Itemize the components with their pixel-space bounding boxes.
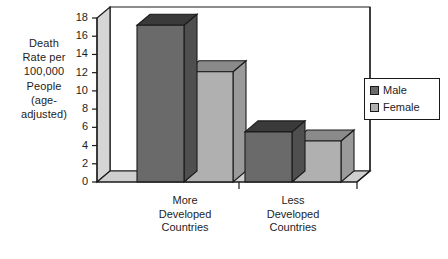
y-axis-tick-label: 0 — [66, 176, 88, 187]
bar-front-male-1 — [245, 132, 292, 182]
bar-side-male-0 — [184, 14, 197, 182]
y-axis-tick-label: 18 — [66, 12, 88, 23]
legend-item-male: Male — [370, 85, 407, 96]
x-axis-category-label-line: Less — [228, 194, 358, 208]
x-axis-category-label-line: Developed — [228, 208, 358, 222]
y-axis-tick-label: 2 — [66, 158, 88, 169]
legend-swatch-female — [370, 103, 379, 112]
y-axis-tick-label: 14 — [66, 48, 88, 59]
legend: Male Female — [364, 78, 440, 120]
bar-side-female-0 — [233, 61, 246, 182]
bar-chart: Death Rate per 100,000 People (age- adju… — [0, 0, 448, 259]
x-axis-category-label-line: Countries — [228, 221, 358, 235]
legend-label-male: Male — [383, 85, 407, 96]
y-axis-tick-label: 16 — [66, 30, 88, 41]
plot-left-wall — [97, 7, 110, 182]
legend-swatch-male — [370, 86, 379, 95]
y-axis-tick-label: 12 — [66, 67, 88, 78]
y-axis-tick-label: 8 — [66, 103, 88, 114]
y-axis-tick-label: 6 — [66, 121, 88, 132]
x-axis-category-label: LessDevelopedCountries — [228, 194, 358, 235]
y-axis-tick-label: 4 — [66, 140, 88, 151]
legend-item-female: Female — [370, 102, 420, 113]
y-axis-tick-label: 10 — [66, 85, 88, 96]
legend-label-female: Female — [383, 102, 420, 113]
bar-front-male-0 — [137, 25, 184, 182]
